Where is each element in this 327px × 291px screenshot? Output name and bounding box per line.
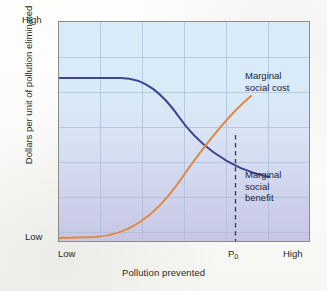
y-axis-title-text: Dollars per unit of pollution eliminated [23, 6, 34, 164]
msb-label-line1: Marginal [245, 169, 281, 181]
marginal-social-benefit-label: Marginal social benefit [245, 169, 281, 204]
y-tick-high: High [22, 14, 42, 25]
msb-label-line2: social [245, 181, 281, 193]
chart-svg [59, 22, 309, 241]
y-tick-low: Low [25, 231, 42, 242]
vertical-gridlines [101, 22, 269, 241]
marginal-social-cost-curve [59, 96, 251, 238]
x-tick-high: High [283, 248, 303, 259]
msb-label-line3: benefit [245, 192, 281, 204]
msc-label-line2: social cost [245, 82, 289, 94]
x-axis-title: Pollution prevented [122, 267, 205, 278]
economics-graph-figure: Dollars per unit of pollution eliminated… [0, 0, 327, 291]
x-tick-p0: P0 [228, 248, 239, 261]
x-tick-low: Low [58, 248, 75, 259]
marginal-social-cost-label: Marginal social cost [245, 70, 289, 93]
plot-area: Marginal social cost Marginal social ben… [58, 21, 310, 242]
y-axis-title: Dollars per unit of pollution eliminated [18, 0, 32, 195]
msc-label-line1: Marginal [245, 70, 289, 82]
x-tick-p0-subscript: 0 [234, 252, 238, 261]
